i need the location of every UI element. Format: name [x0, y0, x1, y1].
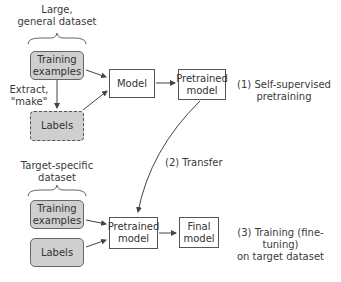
top-dataset-label: Large, general dataset	[10, 4, 104, 28]
final-model-box: Final model	[179, 217, 219, 248]
step1-label: (1) Self-supervised pretraining	[228, 79, 340, 103]
pretrained-model-top-box: Pretrained model	[178, 69, 226, 100]
pretrained-model-bottom-box: Pretrained model	[109, 217, 158, 249]
top-brace	[28, 33, 86, 44]
model-box: Model	[109, 69, 155, 98]
step2-label: (2) Transfer	[165, 157, 245, 169]
extract-make-label: Extract, "make"	[4, 84, 54, 108]
bottom-training-examples-box: Training examples	[30, 200, 84, 229]
top-labels-box: Labels	[30, 111, 84, 141]
top-training-examples-box: Training examples	[30, 51, 84, 80]
bottom-brace	[28, 185, 86, 196]
step3-label: (3) Training (fine-tuning) on target dat…	[220, 227, 341, 263]
bottom-labels-box: Labels	[30, 238, 84, 267]
bottom-dataset-label: Target-specific dataset	[10, 160, 104, 184]
